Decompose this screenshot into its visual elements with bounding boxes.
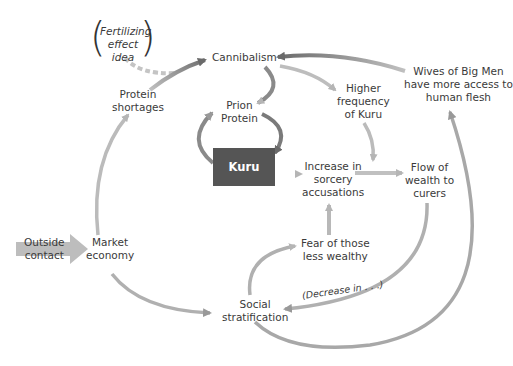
edge-market-social — [112, 274, 210, 313]
flow-line-3: curers — [405, 187, 454, 200]
edge-kuru-prion — [199, 113, 213, 163]
edge-cannibalism-higher — [280, 66, 335, 90]
sorcery-line-1: Increase in — [302, 160, 364, 173]
edge-market-protein — [97, 115, 128, 235]
node-market-economy: Market economy — [86, 236, 134, 262]
node-wives-big-men: Wives of Big Men have more access to hum… — [404, 65, 513, 104]
fear-line-1: Fear of those — [301, 237, 370, 250]
higher-line-3: of Kuru — [337, 108, 390, 121]
kuru-label: Kuru — [229, 160, 260, 174]
wives-line-2: have more access to — [404, 78, 513, 91]
market-line-2: economy — [86, 249, 134, 262]
prion-line-1: Prion — [221, 99, 258, 112]
protein-shortages-line-2: shortages — [112, 101, 164, 114]
higher-line-1: Higher — [337, 82, 390, 95]
edge-higher-flow — [364, 123, 373, 160]
wives-line-3: human flesh — [404, 91, 513, 104]
node-kuru: Kuru — [213, 148, 275, 186]
fertilizing-line-1: Fertilizing — [100, 25, 146, 38]
protein-shortages-line-1: Protein — [112, 88, 164, 101]
sorcery-line-3: accusations — [302, 186, 364, 199]
sorcery-line-2: sorcery — [302, 173, 364, 186]
node-cannibalism: Cannibalism — [212, 51, 277, 64]
fertilizing-line-3: idea — [100, 51, 146, 64]
flow-line-1: Flow of — [405, 161, 454, 174]
social-line-2: stratification — [222, 311, 288, 324]
node-prion-protein: Prion Protein — [221, 99, 258, 125]
outside-line-2: contact — [24, 249, 65, 262]
edge-social-fear — [250, 246, 295, 295]
node-flow-of-wealth: Flow of wealth to curers — [405, 161, 454, 200]
wives-line-1: Wives of Big Men — [404, 65, 513, 78]
node-sorcery-accusations: Increase in sorcery accusations — [302, 160, 364, 199]
node-outside-contact: Outside contact — [24, 236, 65, 262]
outside-line-1: Outside — [24, 236, 65, 249]
edge-cannibalism-prion — [258, 67, 274, 103]
node-fertilizing-effect-idea: Fertilizing effect idea — [100, 25, 146, 64]
node-social-stratification: Social stratification — [222, 298, 288, 324]
fear-line-2: less wealthy — [301, 250, 370, 263]
node-protein-shortages: Protein shortages — [112, 88, 164, 114]
higher-line-2: frequency — [337, 95, 390, 108]
social-line-1: Social — [222, 298, 288, 311]
node-higher-frequency: Higher frequency of Kuru — [337, 82, 390, 121]
market-line-1: Market — [86, 236, 134, 249]
flow-line-2: wealth to — [405, 174, 454, 187]
node-fear-less-wealthy: Fear of those less wealthy — [301, 237, 370, 263]
fertilizing-line-2: effect — [100, 38, 146, 51]
edge-protein-cannibalism — [150, 60, 205, 90]
prion-line-2: Protein — [221, 112, 258, 125]
